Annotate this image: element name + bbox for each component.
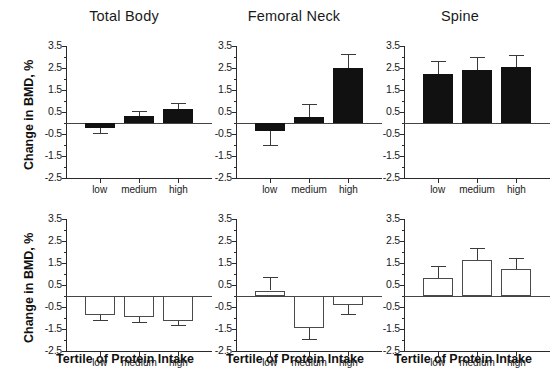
error-bar-cap xyxy=(509,258,524,259)
x-tick xyxy=(516,352,517,356)
error-bar-cap xyxy=(431,266,446,267)
error-bar-stem xyxy=(438,266,439,278)
y-tick-label: -2.5 xyxy=(370,344,400,356)
x-tick xyxy=(477,352,478,356)
y-tick-minor xyxy=(402,340,405,341)
y-tick-label: 0.5 xyxy=(370,278,400,290)
y-tick-label: 2.5 xyxy=(370,234,400,246)
error-bar-stem xyxy=(477,248,478,260)
y-tick-major xyxy=(400,329,405,330)
bar-bottom-2-high xyxy=(501,269,531,296)
bar-bottom-2-low xyxy=(423,278,453,296)
y-tick-minor xyxy=(402,318,405,319)
y-tick-major xyxy=(400,263,405,264)
x-tick-label-high: high xyxy=(490,357,542,368)
error-bar-cap xyxy=(470,248,485,249)
x-tick xyxy=(438,352,439,356)
y-tick-label: 3.5 xyxy=(370,212,400,224)
y-tick-major xyxy=(400,285,405,286)
y-tick-major xyxy=(400,219,405,220)
y-tick-major xyxy=(400,351,405,352)
y-tick-label: -1.5 xyxy=(370,322,400,334)
y-tick-minor xyxy=(402,274,405,275)
y-tick-major xyxy=(400,307,405,308)
y-tick-major xyxy=(400,241,405,242)
bar-bottom-2-medium xyxy=(462,260,492,296)
zero-line xyxy=(404,296,550,297)
y-tick-label: -0.5 xyxy=(370,300,400,312)
y-tick-minor xyxy=(402,252,405,253)
y-tick-label: 1.5 xyxy=(370,256,400,268)
y-tick-minor xyxy=(402,230,405,231)
error-bar-stem xyxy=(516,258,517,269)
